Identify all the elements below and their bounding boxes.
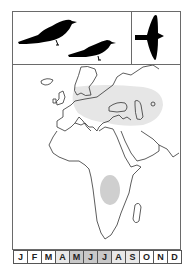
- month-jun: J: [84, 251, 98, 263]
- breeding-range: [73, 85, 163, 126]
- month-dec: D: [168, 251, 181, 263]
- month-may: M: [70, 251, 84, 263]
- perched-birds-panel: [12, 11, 132, 64]
- month-jul: J: [98, 251, 112, 263]
- bird-flying-icon: [132, 11, 181, 64]
- month-aug: A: [112, 251, 126, 263]
- month-sep: S: [126, 251, 140, 263]
- month-mar: M: [42, 251, 56, 263]
- month-calendar: J F M A M J J A S O N D: [13, 250, 182, 264]
- month-nov: N: [154, 251, 168, 263]
- flying-bird-panel: [132, 11, 181, 64]
- illustration-header: [12, 11, 181, 65]
- map-outline: [13, 65, 180, 249]
- range-map: [13, 65, 180, 249]
- month-feb: F: [28, 251, 42, 263]
- bird-perched-large-icon: [12, 11, 131, 64]
- wintering-range: [100, 175, 120, 205]
- month-jan: J: [14, 251, 28, 263]
- month-oct: O: [140, 251, 154, 263]
- month-apr: A: [56, 251, 70, 263]
